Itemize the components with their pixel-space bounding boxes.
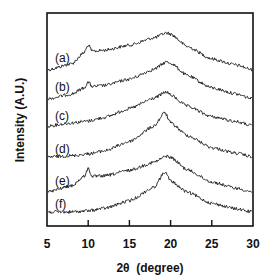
curve-e: [48, 155, 252, 193]
curve-f: [48, 172, 252, 213]
x-axis-title: 2θ (degree): [116, 261, 183, 275]
curves-group: [48, 32, 252, 214]
x-tick-label: 20: [164, 237, 178, 251]
curve-label-c: (c): [55, 109, 69, 123]
x-axis-ticks: 51015202530: [44, 220, 260, 251]
curve-a: [48, 32, 252, 71]
curve-label-d: (d): [55, 142, 70, 156]
curve-c: [48, 91, 252, 127]
x-tick-label: 15: [123, 237, 137, 251]
x-tick-label: 10: [82, 237, 96, 251]
curve-labels-group: (a)(b)(c)(d)(e)(f): [55, 51, 70, 211]
curve-label-b: (b): [55, 80, 70, 94]
curve-label-e: (e): [55, 174, 70, 188]
y-axis-title: Intensity (A.U.): [13, 78, 27, 163]
curve-label-f: (f): [55, 197, 66, 211]
x-tick-label: 5: [44, 237, 51, 251]
x-tick-label: 25: [205, 237, 219, 251]
curve-label-a: (a): [55, 51, 70, 65]
x-tick-label: 30: [246, 237, 260, 251]
curve-b: [48, 61, 252, 100]
xrd-chart: (a)(b)(c)(d)(e)(f) 51015202530 Intensity…: [0, 0, 270, 277]
